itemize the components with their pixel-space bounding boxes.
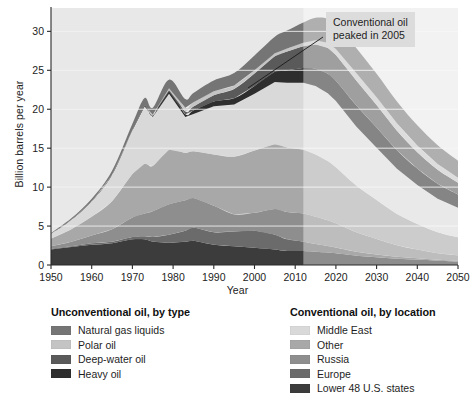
legend-item[interactable]: Russia — [290, 352, 436, 367]
legend-group-conventional: Conventional oil, by location Middle Eas… — [290, 306, 436, 396]
legend-swatch-icon — [51, 340, 71, 349]
legend-group-title: Unconventional oil, by type — [51, 306, 190, 318]
legend-item[interactable]: Other — [290, 338, 436, 353]
y-tick-label: 30 — [32, 25, 44, 37]
legend-item-label: Polar oil — [78, 339, 116, 351]
legend-item[interactable]: Lower 48 U.S. states — [290, 381, 436, 396]
legend-item[interactable]: Deep-water oil — [51, 352, 190, 367]
legend-item-label: Europe — [317, 368, 351, 380]
legend-item[interactable]: Polar oil — [51, 338, 190, 353]
x-axis-title: Year — [0, 284, 475, 296]
legend-item-label: Russia — [317, 353, 349, 365]
legend-swatch-icon — [51, 355, 71, 364]
y-tick-label: 10 — [32, 181, 44, 193]
legend-group-title: Conventional oil, by location — [290, 306, 436, 318]
annotation-line-2: peaked in 2005 — [333, 29, 408, 42]
x-tick-label: 2030 — [365, 271, 389, 283]
legend-item[interactable]: Natural gas liquids — [51, 323, 190, 338]
legend-item[interactable]: Middle East — [290, 323, 436, 338]
y-tick-label: 15 — [32, 142, 44, 154]
legend-swatch-icon — [290, 326, 310, 335]
y-tick-label: 0 — [38, 259, 44, 271]
annotation-line-1: Conventional oil — [333, 16, 408, 29]
x-tick-label: 2020 — [324, 271, 348, 283]
legend-item-label: Other — [317, 339, 343, 351]
legend-item[interactable]: Heavy oil — [51, 367, 190, 382]
legend-item-label: Deep-water oil — [78, 353, 146, 365]
legend-item-list: Middle EastOtherRussiaEuropeLower 48 U.S… — [290, 323, 436, 396]
x-tick-label: 2040 — [406, 271, 430, 283]
x-tick-label: 1990 — [202, 271, 226, 283]
figure-root: 0510152025301950196019701980199020002010… — [0, 0, 475, 410]
chart-area: 0510152025301950196019701980199020002010… — [0, 0, 475, 300]
y-tick-label: 25 — [32, 64, 44, 76]
annotation-callout: Conventional oil peaked in 2005 — [326, 12, 415, 47]
x-tick-label: 1970 — [121, 271, 145, 283]
legend-swatch-icon — [290, 340, 310, 349]
x-tick-label: 1960 — [80, 271, 104, 283]
legend-swatch-icon — [51, 326, 71, 335]
x-tick-label: 2050 — [446, 271, 470, 283]
y-axis-title: Billion barrels per year — [13, 59, 25, 209]
legend-item-label: Lower 48 U.S. states — [317, 382, 414, 394]
legend-item-label: Heavy oil — [78, 368, 121, 380]
x-tick-label: 1950 — [39, 271, 63, 283]
legend-group-unconventional: Unconventional oil, by type Natural gas … — [51, 306, 190, 381]
x-tick-label: 2000 — [243, 271, 267, 283]
legend-item-list: Natural gas liquidsPolar oilDeep-water o… — [51, 323, 190, 381]
x-tick-label: 1980 — [161, 271, 185, 283]
chart-legend: Unconventional oil, by type Natural gas … — [0, 300, 475, 410]
y-tick-label: 5 — [38, 220, 44, 232]
legend-item[interactable]: Europe — [290, 367, 436, 382]
legend-swatch-icon — [290, 369, 310, 378]
legend-item-label: Natural gas liquids — [78, 324, 164, 336]
legend-item-label: Middle East — [317, 324, 372, 336]
legend-swatch-icon — [51, 369, 71, 378]
legend-swatch-icon — [290, 384, 310, 393]
x-tick-label: 2010 — [284, 271, 308, 283]
y-tick-label: 20 — [32, 103, 44, 115]
legend-swatch-icon — [290, 355, 310, 364]
